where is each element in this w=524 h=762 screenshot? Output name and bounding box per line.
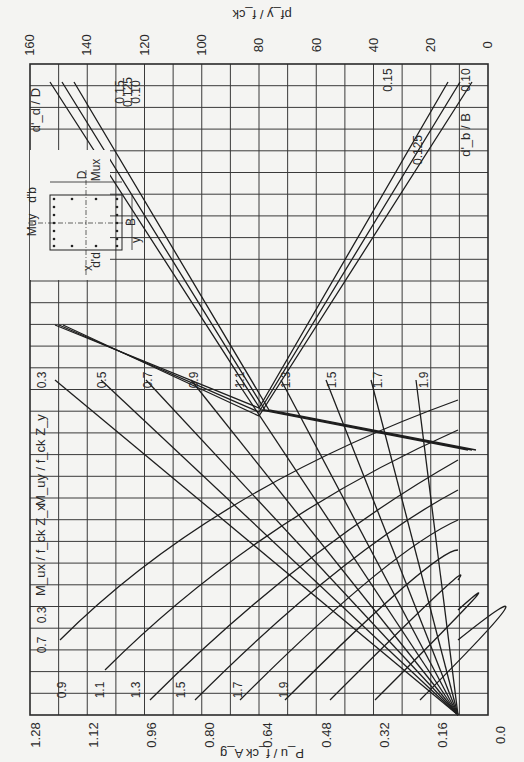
muy-value-label: 1.9 xyxy=(417,371,431,388)
db-value-label: 0.125 xyxy=(411,135,425,165)
inset-b-label: B xyxy=(124,218,138,226)
top-axis-tick: 80 xyxy=(251,38,266,52)
dd-title: d'_d / D xyxy=(28,88,43,132)
muy-value-label: 0.5 xyxy=(95,371,109,388)
bottom-axis-tick: 0.64 xyxy=(260,722,275,747)
bottom-axis-tick: 0.48 xyxy=(319,722,334,747)
mux-title: M_ux / f_ck Z_x xyxy=(33,504,48,596)
bottom-axis-title: P_u / f_ck A_g xyxy=(220,746,304,761)
db-value-label: 0.10 xyxy=(459,68,473,92)
top-axis-tick: 100 xyxy=(194,34,209,56)
bottom-axis-tick: 0.32 xyxy=(377,722,392,747)
top-axis-tick: 40 xyxy=(366,38,381,52)
interaction-chart: 1.281.120.960.800.640.480.320.160.016014… xyxy=(0,0,524,762)
mux-value-label: 0.9 xyxy=(55,681,69,698)
top-axis-tick: 60 xyxy=(309,38,324,52)
top-axis-tick: 120 xyxy=(137,34,152,56)
inset-d-label: D xyxy=(75,170,89,179)
bottom-axis-tick: 0.16 xyxy=(435,722,450,747)
top-axis-tick: 0 xyxy=(480,41,495,48)
muy-value-label: 0.9 xyxy=(187,371,201,388)
muy-value-label: 0.3 xyxy=(35,371,49,388)
inset-mux-label: Mux xyxy=(89,159,103,182)
mux-value-label: 1.9 xyxy=(277,681,291,698)
inset-dd-label: d'd xyxy=(89,252,103,268)
muy-value-label: 0.7 xyxy=(141,371,155,388)
top-axis-tick: 140 xyxy=(79,34,94,56)
mux-value-label: 0.3 xyxy=(35,606,49,623)
muy-value-label: 1.3 xyxy=(279,371,293,388)
inset-y-label: y xyxy=(129,237,143,243)
muy-value-label: 1.5 xyxy=(325,371,339,388)
inset-db-label: d'b xyxy=(25,187,39,203)
bottom-axis-tick: 0.96 xyxy=(144,722,159,747)
top-axis-title: pf_y / f_ck xyxy=(232,7,292,22)
mux-value-label: 0.7 xyxy=(35,636,49,653)
mux-value-label: 1.1 xyxy=(93,681,107,698)
bottom-axis-tick: 1.28 xyxy=(28,722,43,747)
muy-value-label: 1.7 xyxy=(371,371,385,388)
bottom-axis-tick: 1.12 xyxy=(86,722,101,747)
muy-title: M_uy / f_ck Z_y xyxy=(33,414,48,506)
db-value-label: 0.15 xyxy=(381,68,395,92)
muy-value-label: 1.1 xyxy=(233,371,247,388)
mux-value-label: 1.3 xyxy=(129,681,143,698)
mux-value-label: 1.7 xyxy=(231,681,245,698)
top-axis-tick: 20 xyxy=(423,38,438,52)
dd-value-label: 0.10 xyxy=(129,80,143,104)
top-axis-tick: 160 xyxy=(22,34,37,56)
inset-muy-label: Muy xyxy=(25,214,39,237)
bottom-axis-tick: 0.80 xyxy=(202,722,217,747)
db-title: d'_b / B xyxy=(458,113,473,157)
bottom-axis-tick: 0.0 xyxy=(493,726,508,744)
mux-value-label: 1.5 xyxy=(174,681,188,698)
